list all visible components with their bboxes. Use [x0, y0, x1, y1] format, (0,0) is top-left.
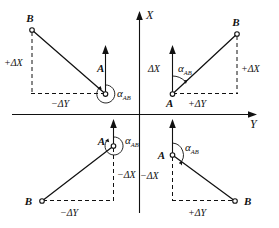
- quadrant-top-left: B A +ΔX −ΔY αAB: [4, 12, 131, 109]
- tl-delta-y-label: −ΔY: [51, 98, 71, 109]
- tr-point-b-marker: [235, 32, 240, 37]
- tl-point-a-label: A: [96, 62, 104, 74]
- bl-point-a-label: A: [97, 135, 105, 147]
- tl-alpha-label: αAB: [117, 87, 131, 101]
- tl-point-b-label: B: [25, 12, 33, 24]
- tr-angle-arc: [173, 76, 186, 81]
- tl-point-b-marker: [30, 28, 35, 33]
- quadrant-top-right: B A ΔX +ΔX +ΔY αAB: [147, 16, 261, 109]
- figure-canvas: X Y B A +ΔX −ΔY: [0, 0, 279, 228]
- tr-alpha-label: αAB: [178, 62, 192, 76]
- quadrant-bottom-left: A B −ΔX −ΔY αAB: [24, 119, 139, 218]
- tr-delta-y-label: +ΔY: [188, 98, 208, 109]
- br-north-arrowhead: [169, 119, 176, 128]
- tr-point-a-label: A: [165, 97, 173, 109]
- tl-delta-x-label: +ΔX: [4, 57, 24, 68]
- bl-vector-ab: [42, 146, 114, 201]
- tl-north-arrowhead: [102, 45, 109, 54]
- tr-point-a-marker: [170, 92, 175, 97]
- bl-alpha-subscript: AB: [130, 141, 139, 148]
- br-point-b-marker: [233, 199, 238, 204]
- tr-delta-x-label: ΔX: [147, 63, 161, 74]
- br-alpha-label: αAB: [185, 141, 199, 155]
- bl-alpha-label: αAB: [125, 134, 139, 148]
- tr-north-arrowhead: [169, 45, 176, 54]
- tr-point-b-label: B: [231, 16, 239, 28]
- tr-alpha-subscript: AB: [183, 69, 192, 76]
- br-delta-x-label: −ΔX: [140, 170, 160, 181]
- x-axis-arrowhead: [136, 11, 143, 20]
- br-delta-y-label: +ΔY: [188, 207, 208, 218]
- bl-north-arrowhead: [110, 119, 117, 128]
- tl-vector-ab: [32, 30, 106, 94]
- y-axis-label: Y: [250, 117, 258, 131]
- x-axis-label: X: [145, 8, 154, 22]
- bl-delta-x-label: −ΔX: [117, 169, 137, 180]
- bl-point-a-marker: [111, 144, 116, 149]
- tr-delta-x-outer-label: +ΔX: [241, 63, 261, 74]
- axis-group: X Y: [12, 8, 258, 213]
- br-alpha-subscript: AB: [190, 148, 199, 155]
- tl-alpha-subscript: AB: [122, 94, 131, 101]
- br-point-b-label: B: [243, 195, 251, 207]
- bl-delta-y-label: −ΔY: [60, 207, 80, 218]
- quadrant-bottom-right: A B −ΔX +ΔY αAB: [140, 119, 251, 218]
- br-point-a-marker: [170, 153, 175, 158]
- bl-point-b-marker: [40, 199, 45, 204]
- br-point-a-label: A: [157, 149, 165, 161]
- tl-point-a-marker: [103, 92, 108, 97]
- bearing-angle-figure: X Y B A +ΔX −ΔY: [0, 0, 279, 228]
- bl-point-b-label: B: [24, 195, 32, 207]
